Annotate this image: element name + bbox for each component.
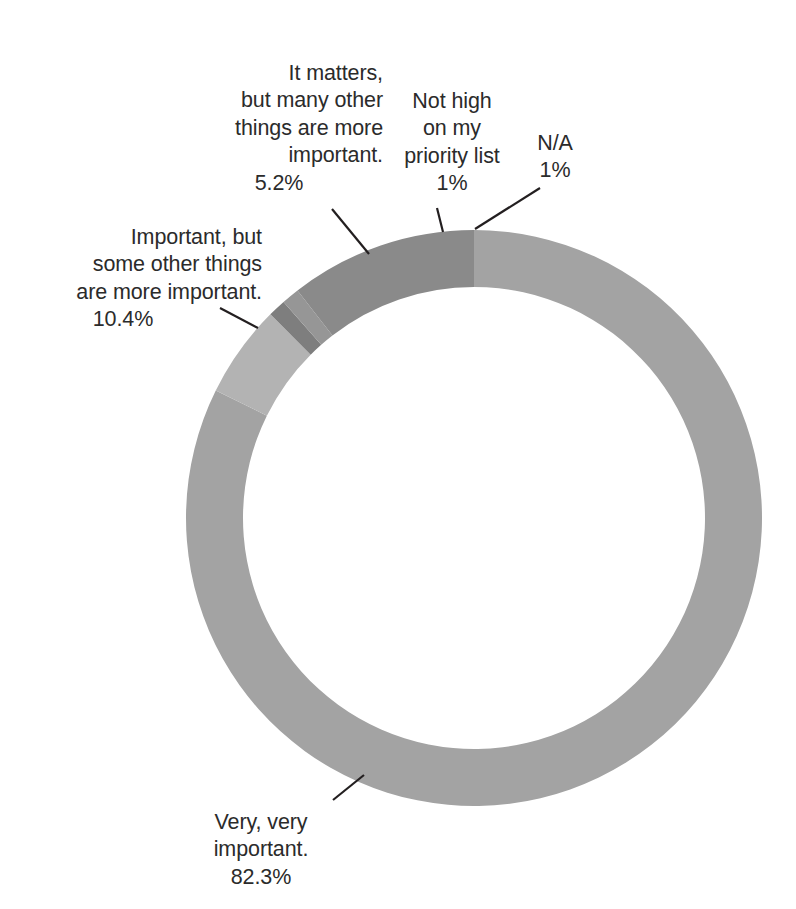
chart-canvas: It matters, but many other things are mo… bbox=[0, 0, 796, 909]
donut-slice[interactable] bbox=[297, 230, 474, 335]
slice-label-not-high-priority: Not high on my priority list 1% bbox=[386, 60, 518, 225]
slice-label-na: N/A 1% bbox=[500, 102, 610, 212]
slice-label-important-but: Important, but some other things are mor… bbox=[36, 196, 262, 361]
slice-label-not-high-priority-percent: 1% bbox=[386, 170, 518, 198]
slice-label-not-high-priority-text: Not high on my priority list bbox=[404, 89, 499, 168]
slice-label-very-very-important-text: Very, very important. bbox=[214, 810, 309, 862]
slice-label-important-but-percent: 10.4% bbox=[36, 306, 262, 334]
donut-slice-group bbox=[186, 230, 762, 806]
slice-label-na-text: N/A bbox=[537, 131, 573, 155]
slice-label-na-percent: 1% bbox=[500, 157, 610, 185]
slice-label-very-very-important: Very, very important. 82.3% bbox=[170, 781, 352, 909]
slice-label-very-very-important-percent: 82.3% bbox=[170, 864, 352, 892]
slice-label-important-but-text: Important, but some other things are mor… bbox=[76, 225, 262, 304]
slice-label-it-matters-percent: 5.2% bbox=[193, 170, 383, 198]
slice-label-it-matters-text: It matters, but many other things are mo… bbox=[235, 61, 383, 168]
